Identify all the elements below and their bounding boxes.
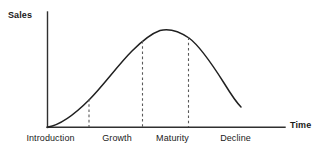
stage-label-growth: Growth xyxy=(100,133,134,143)
chart-canvas xyxy=(0,0,319,154)
x-axis-title: Time xyxy=(290,120,311,130)
stage-label-maturity: Maturity xyxy=(151,133,194,143)
stage-label-introduction: Introduction xyxy=(22,133,79,143)
y-axis-title: Sales xyxy=(8,10,32,20)
product-life-cycle-chart: Sales Time Introduction Growth Maturity … xyxy=(0,0,319,154)
stage-label-decline: Decline xyxy=(216,133,255,143)
sales-curve xyxy=(48,30,241,127)
